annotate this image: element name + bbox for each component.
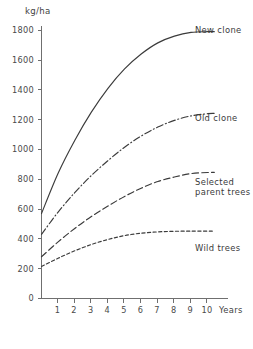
x-tick-label-8: 8: [171, 305, 177, 315]
series-label-selected-parent-trees-line2: parent trees: [195, 187, 251, 197]
x-tick-label-10: 10: [201, 305, 212, 315]
series-label-new-clone: New clone: [195, 25, 242, 35]
y-tick-label-400: 400: [17, 234, 34, 244]
x-axis-name-label: Years: [218, 305, 243, 315]
x-tick-label-2: 2: [71, 305, 77, 315]
x-tick-label-6: 6: [138, 305, 144, 315]
x-tick-label-4: 4: [105, 305, 111, 315]
x-tick-label-9: 9: [188, 305, 194, 315]
x-tick-label-3: 3: [88, 305, 94, 315]
y-tick-label-1800: 1800: [12, 25, 34, 35]
x-axis-ticks: 1 2 3 4 5 6 7 8 9 10: [55, 299, 213, 316]
series-label-old-clone: Old clone: [195, 113, 238, 123]
y-tick-label-1200: 1200: [12, 115, 34, 125]
series-label-selected-parent-trees-line1: Selected: [195, 177, 234, 187]
series-line-selected-parent-trees: [42, 172, 215, 256]
x-tick-label-1: 1: [55, 305, 61, 315]
y-tick-label-1400: 1400: [12, 85, 34, 95]
x-tick-label-5: 5: [121, 305, 127, 315]
series-line-new-clone: [42, 32, 215, 214]
y-tick-label-1000: 1000: [12, 144, 34, 154]
y-tick-label-800: 800: [17, 174, 34, 184]
y-tick-label-200: 200: [17, 264, 34, 274]
y-tick-label-600: 600: [17, 204, 34, 214]
y-axis-unit-label: kg/ha: [25, 6, 51, 16]
series-label-wild-trees: Wild trees: [195, 243, 240, 253]
growth-curve-chart: kg/ha 0 200 400 600 800 1000 1200 1400 1…: [0, 0, 253, 349]
y-axis-ticks: 0 200 400 600 800 1000 1200 1400 1600 18…: [12, 25, 42, 303]
y-tick-label-0: 0: [28, 293, 34, 303]
chart-canvas: kg/ha 0 200 400 600 800 1000 1200 1400 1…: [0, 0, 253, 349]
series-line-wild-trees: [42, 231, 215, 266]
x-tick-label-7: 7: [154, 305, 160, 315]
y-tick-label-1600: 1600: [12, 55, 34, 65]
